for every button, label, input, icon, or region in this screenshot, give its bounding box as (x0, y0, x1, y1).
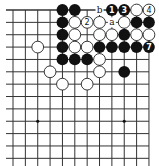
white-stone: 4 (143, 4, 155, 16)
white-stone (57, 78, 69, 90)
move-number: 7 (146, 43, 152, 52)
white-stone (118, 16, 130, 28)
black-stone (143, 16, 155, 28)
black-stone (69, 54, 81, 66)
black-stone (81, 54, 93, 66)
black-stone (57, 16, 69, 28)
white-stone (131, 29, 143, 41)
white-stone (81, 41, 93, 53)
white-stone (94, 29, 106, 41)
star-point (123, 120, 126, 123)
black-stone (118, 29, 130, 41)
white-stone (32, 41, 44, 53)
white-stone: 2 (81, 16, 93, 28)
black-stone (94, 41, 106, 53)
white-stone (94, 66, 106, 78)
black-stone (57, 41, 69, 53)
black-stone: 7 (143, 41, 155, 53)
white-stone (69, 29, 81, 41)
black-stone (131, 16, 143, 28)
black-stone (106, 41, 118, 53)
point-label-b: b (97, 5, 103, 15)
black-stone (118, 66, 130, 78)
move-number: 4 (146, 6, 151, 15)
star-point (36, 120, 39, 123)
white-stone (94, 16, 106, 28)
white-stone (131, 4, 143, 16)
black-stone (118, 41, 130, 53)
black-stone (131, 41, 143, 53)
go-board-diagram: 13427 ba (0, 0, 159, 166)
black-stone (57, 29, 69, 41)
white-stone (81, 78, 93, 90)
move-number: 3 (121, 6, 127, 15)
black-stone: 1 (106, 4, 118, 16)
move-number: 1 (109, 6, 115, 15)
white-stone (44, 66, 56, 78)
black-stone (57, 54, 69, 66)
white-stone (106, 29, 118, 41)
point-label-a: a (109, 17, 115, 27)
white-stone (94, 54, 106, 66)
black-stone (69, 4, 81, 16)
white-stone (69, 41, 81, 53)
black-stone (57, 4, 69, 16)
black-stone: 3 (118, 4, 130, 16)
white-stone (143, 29, 155, 41)
white-stone (69, 16, 81, 28)
move-number: 2 (85, 18, 90, 27)
